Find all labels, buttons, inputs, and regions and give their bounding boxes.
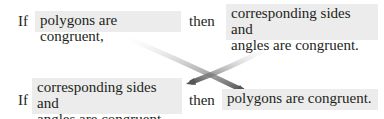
converse-hypothesis-box: corresponding sides and angles are congr… (32, 78, 182, 114)
conclusion-line1: corresponding sides and (231, 5, 373, 37)
then-label: then (189, 14, 215, 29)
if-label: If (18, 14, 28, 29)
converse-conclusion-text: polygons are congruent. (227, 90, 372, 106)
converse-if-label: If (18, 93, 28, 108)
conclusion-box: corresponding sides and angles are congr… (226, 4, 378, 40)
converse-then-label: then (189, 93, 215, 108)
converse-hypothesis-line2: angles are congruent, (37, 111, 177, 119)
converse-hypothesis-line1: corresponding sides and (37, 79, 177, 111)
hypothesis-box: polygons are congruent, (35, 11, 181, 32)
converse-conclusion-box: polygons are congruent. (222, 89, 378, 110)
conclusion-line2: angles are congruent. (231, 37, 373, 53)
